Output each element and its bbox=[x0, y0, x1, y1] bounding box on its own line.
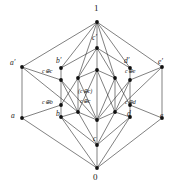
lattice-node[interactable] bbox=[128, 78, 132, 82]
lattice-node[interactable] bbox=[113, 76, 117, 80]
lattice-edge bbox=[22, 105, 61, 118]
lattice-edge bbox=[115, 80, 130, 112]
lattice-node[interactable] bbox=[128, 103, 132, 107]
lattice-node[interactable] bbox=[128, 115, 132, 119]
lattice-edge bbox=[78, 22, 97, 78]
lattice-edge bbox=[22, 22, 97, 67]
lattice-diagram: 1c′c0a′ae′eb′c⊕cc⊕bbd′c⊕ec⊕dd(c⊕c)c⊕c bbox=[0, 0, 176, 188]
lattice-node[interactable] bbox=[95, 46, 99, 50]
lattice-edge bbox=[97, 48, 130, 68]
lattice-edge bbox=[115, 112, 130, 117]
lattice-node[interactable] bbox=[76, 110, 80, 114]
lattice-edge bbox=[97, 22, 162, 67]
lattice-edge bbox=[97, 78, 115, 120]
lattice-edge bbox=[97, 48, 115, 78]
lattice-edge bbox=[97, 117, 130, 168]
lattice-edge bbox=[61, 117, 97, 168]
edge-layer bbox=[22, 22, 162, 168]
lattice-node[interactable] bbox=[95, 118, 99, 122]
lattice-node[interactable] bbox=[95, 143, 99, 147]
lattice-edge bbox=[78, 70, 97, 112]
lattice-edge bbox=[97, 70, 115, 112]
lattice-edge bbox=[61, 117, 97, 145]
lattice-edge bbox=[61, 22, 97, 68]
lattice-edge bbox=[78, 48, 97, 78]
lattice-node[interactable] bbox=[95, 166, 99, 170]
lattice-node[interactable] bbox=[59, 103, 63, 107]
lattice-node[interactable] bbox=[59, 115, 63, 119]
lattice-edge bbox=[97, 118, 162, 168]
lattice-edge bbox=[61, 112, 78, 117]
lattice-node[interactable] bbox=[20, 65, 24, 69]
lattice-node[interactable] bbox=[59, 66, 63, 70]
lattice-node[interactable] bbox=[95, 68, 99, 72]
lattice-edge bbox=[130, 105, 162, 118]
lattice-node[interactable] bbox=[20, 116, 24, 120]
lattice-node[interactable] bbox=[128, 66, 132, 70]
lattice-edge bbox=[97, 22, 130, 68]
lattice-node[interactable] bbox=[59, 78, 63, 82]
lattice-edge bbox=[97, 117, 130, 145]
lattice-node[interactable] bbox=[113, 110, 117, 114]
lattice-node[interactable] bbox=[160, 116, 164, 120]
lattice-edge bbox=[61, 48, 97, 68]
lattice-edge bbox=[22, 67, 61, 80]
lattice-edge bbox=[97, 80, 130, 120]
lattice-edge bbox=[61, 78, 78, 105]
lattice-node[interactable] bbox=[160, 65, 164, 69]
lattice-edge bbox=[78, 78, 97, 120]
lattice-edge bbox=[130, 67, 162, 80]
lattice-graph bbox=[0, 0, 176, 188]
node-layer bbox=[20, 20, 164, 170]
lattice-edge bbox=[97, 22, 115, 78]
lattice-edge bbox=[115, 78, 130, 105]
lattice-node[interactable] bbox=[76, 76, 80, 80]
lattice-node[interactable] bbox=[95, 20, 99, 24]
